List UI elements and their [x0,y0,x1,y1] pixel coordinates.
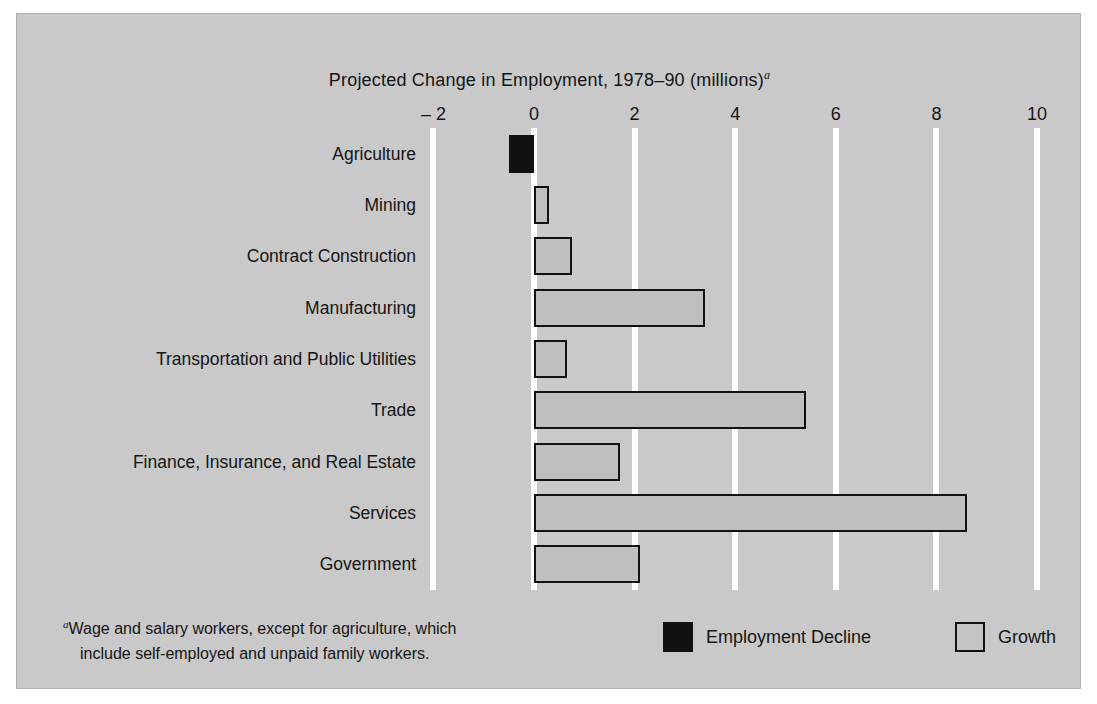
x-tick-label-6: 6 [831,104,841,125]
footnote-line-1: Wage and salary workers, except for agri… [69,620,457,637]
bar [534,186,549,224]
gridline-10 [1034,128,1040,590]
footnote: aWage and salary workers, except for agr… [63,612,563,666]
bar [534,340,567,378]
chart-title: Projected Change in Employment, 1978–90 … [17,68,1082,91]
plot-area [17,128,1082,590]
chart-title-superscript: a [764,68,770,82]
legend-swatch-growth-icon [955,622,985,652]
legend-label-growth: Growth [998,627,1056,648]
x-tick-label-0: 0 [529,104,539,125]
x-tick-label-2: 2 [630,104,640,125]
bar [534,545,640,583]
x-tick-label-10: 10 [1027,104,1047,125]
footnote-line-2: include self-employed and unpaid family … [63,641,563,666]
legend-item-growth: Growth [955,622,1056,652]
bar [534,391,806,429]
bar [509,135,534,173]
bar [534,494,967,532]
bar [534,237,572,275]
chart-title-text: Projected Change in Employment, 1978–90 … [329,70,764,90]
legend-swatch-decline-icon [663,622,693,652]
legend-item-decline: Employment Decline [663,622,871,652]
legend: Employment Decline Growth [663,622,1056,652]
chart-figure: Projected Change in Employment, 1978–90 … [16,13,1081,689]
bar [534,443,620,481]
x-tick-label-4: 4 [730,104,740,125]
gridline-neg2 [430,128,436,590]
x-tick-label-8: 8 [931,104,941,125]
x-tick-label-neg2: – 2 [421,104,446,125]
legend-label-decline: Employment Decline [706,627,871,648]
bar [534,289,705,327]
